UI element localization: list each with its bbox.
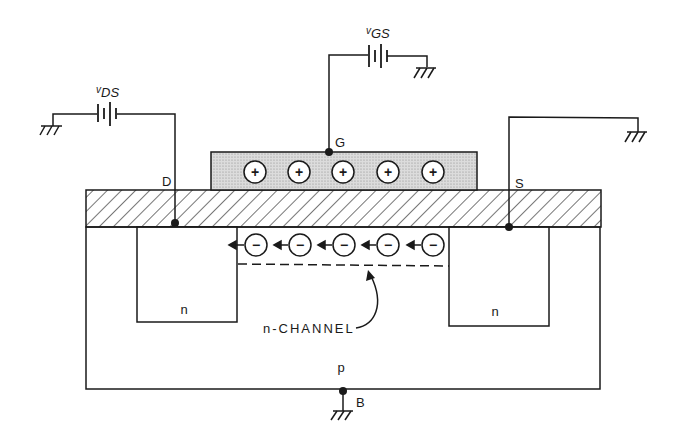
ground-icon [40,126,62,135]
vgs-label: vGS [366,25,390,41]
vds-ground-wire [53,114,97,126]
minus-charge: − [340,237,348,253]
drain-terminal [171,219,179,227]
plus-charge: + [429,164,437,180]
plus-charge: + [339,164,347,180]
drain-label: D [162,174,171,189]
minus-charge: − [296,237,304,253]
oxide-layer [86,190,601,227]
mosfet-diagram: + + + + + − − − − − n-CHANNEL n n p [0,0,680,447]
vds-battery-icon [98,102,116,126]
source-label: S [515,176,524,191]
minus-charge: − [429,237,437,253]
source-terminal [505,223,513,231]
source-n-region [449,227,549,326]
channel-label: n-CHANNEL [263,321,355,336]
minus-charge: − [252,237,260,253]
vgs-battery-icon [369,44,387,68]
plus-charge: + [251,164,259,180]
vgs-ground-wire [387,56,427,67]
drain-region-label: n [180,302,187,317]
source-region-label: n [491,304,498,319]
gate-terminal [325,148,333,156]
vds-label: vDS [96,84,119,100]
ground-icon [414,68,436,78]
body-terminal [339,387,347,395]
ground-icon [625,132,647,142]
minus-charge: − [384,237,392,253]
gate-label: G [335,135,345,150]
plus-charge: + [295,164,303,180]
plus-charge: + [384,164,392,180]
ground-icon [331,411,353,420]
body-label: B [356,395,365,410]
substrate-label: p [337,360,344,375]
